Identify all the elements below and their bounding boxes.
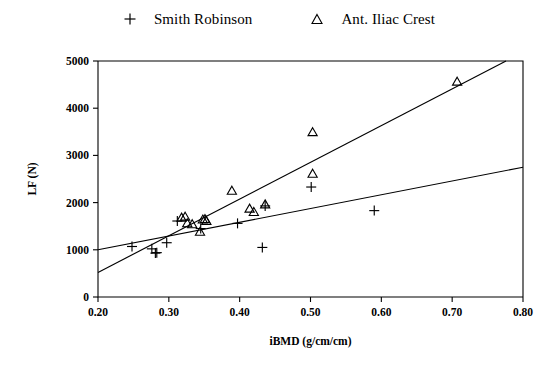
data-point-plus: [369, 206, 379, 216]
y-tick-label: 3000: [66, 149, 89, 161]
x-tick-label: 0.30: [159, 306, 179, 318]
data-point-plus: [306, 182, 316, 192]
y-tick-label: 5000: [66, 55, 89, 67]
x-tick-label: 0.70: [442, 306, 462, 318]
y-tick-label: 2000: [66, 197, 89, 209]
x-tick-label: 0.50: [300, 306, 320, 318]
x-axis-title: iBMD (g/cm/cm): [269, 335, 351, 348]
tick-labels-group: 0100020003000400050000.200.300.400.500.6…: [66, 55, 533, 318]
y-axis-title: LF (N): [26, 162, 39, 195]
data-point-triangle: [227, 186, 236, 194]
data-point-triangle: [453, 77, 462, 85]
x-tick-label: 0.60: [371, 306, 391, 318]
x-tick-label: 0.80: [513, 306, 533, 318]
y-tick-label: 1000: [66, 244, 89, 256]
y-tick-label: 0: [83, 291, 89, 303]
y-tick-label: 4000: [66, 102, 89, 114]
ticks-group: [93, 61, 523, 302]
x-tick-label: 0.20: [88, 306, 108, 318]
data-point-plus: [257, 242, 267, 252]
data-point-plus: [233, 218, 243, 228]
regression-line: [98, 61, 506, 272]
scatter-plot-figure: Smith Robinson Ant. Iliac Crest 01000200…: [0, 0, 558, 368]
x-tick-label: 0.40: [230, 306, 250, 318]
axes-group: [98, 61, 523, 297]
data-point-triangle: [308, 128, 317, 136]
axis-frame-top-right: [98, 61, 523, 297]
data-point-triangle: [308, 169, 317, 177]
fit-lines-group: [98, 61, 523, 272]
axis-frame-left-bottom: [98, 61, 523, 297]
plot-area: 0100020003000400050000.200.300.400.500.6…: [0, 0, 558, 368]
regression-line: [98, 167, 523, 250]
